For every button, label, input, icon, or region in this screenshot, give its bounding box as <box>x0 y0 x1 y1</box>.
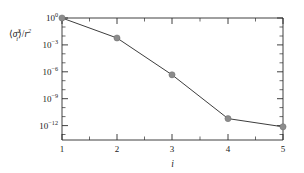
x-tick-label-4: 5 <box>281 144 286 154</box>
y-axis-title: ⟨σ2i⟩/r2 <box>9 27 31 41</box>
y-tick-label-2: 10−6 <box>42 65 58 77</box>
chart-figure: 100 10−3 10−6 10−9 10−12 1 2 3 4 5 ⟨σ2i⟩… <box>0 0 304 173</box>
y-tick-label-1: 10−3 <box>42 38 58 50</box>
y-tick-label-0: 100 <box>46 11 58 23</box>
x-tick-label-2: 3 <box>170 144 175 154</box>
data-point <box>169 72 175 78</box>
data-point <box>225 116 231 122</box>
data-point <box>59 15 65 21</box>
x-axis-title: i <box>171 159 174 169</box>
x-tick-label-1: 2 <box>115 144 120 154</box>
x-tick-labels: 1 2 3 4 5 <box>60 144 286 154</box>
data-point <box>114 35 120 41</box>
y-axis-title-text: ⟨σ2i⟩/r2 <box>9 27 31 41</box>
y-tick-label-4: 10−12 <box>39 119 58 131</box>
x-tick-label-0: 1 <box>60 144 65 154</box>
y-tick-label-3: 10−9 <box>42 92 58 104</box>
x-tick-label-3: 4 <box>226 144 231 154</box>
data-point <box>280 124 286 130</box>
chart-svg: 100 10−3 10−6 10−9 10−12 1 2 3 4 5 ⟨σ2i⟩… <box>0 0 304 173</box>
y-tick-labels: 100 10−3 10−6 10−9 10−12 <box>39 11 58 131</box>
